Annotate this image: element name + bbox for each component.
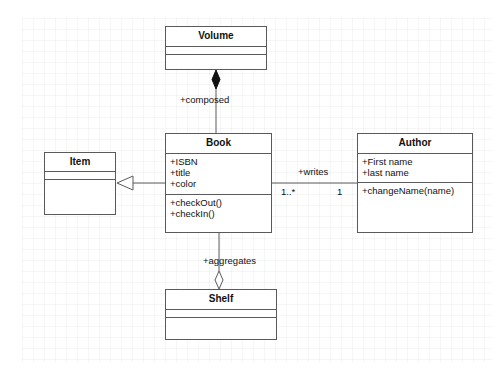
- writes-label: +writes: [298, 166, 328, 177]
- class-shelf[interactable]: Shelf: [165, 289, 277, 340]
- hollow-triangle-icon: [117, 176, 133, 190]
- operations-section: +checkOut() +checkIn(): [166, 195, 271, 219]
- attribute: +title: [170, 167, 271, 178]
- class-name: Item: [45, 153, 115, 172]
- attributes-section: +ISBN +title +color: [166, 154, 271, 195]
- operation: +changeName(name): [362, 185, 472, 196]
- operation: +checkIn(): [170, 208, 271, 219]
- class-author[interactable]: Author +First name +last name +changeNam…: [357, 133, 473, 233]
- class-name: Book: [166, 134, 271, 154]
- class-item[interactable]: Item: [44, 152, 116, 215]
- attribute: +color: [170, 178, 271, 189]
- class-name: Author: [358, 134, 472, 154]
- aggregates-label: +aggregates: [203, 255, 256, 266]
- source-multiplicity: 1..*: [281, 186, 295, 197]
- attributes-section: +First name +last name: [358, 154, 472, 183]
- target-multiplicity: 1: [337, 186, 342, 197]
- attribute: +First name: [362, 156, 472, 167]
- class-name: Volume: [166, 27, 266, 47]
- class-name: Shelf: [166, 290, 276, 310]
- operations-section: +changeName(name): [358, 183, 472, 196]
- attributes-section: [166, 47, 266, 55]
- composed-label: +composed: [180, 94, 229, 105]
- attribute: +ISBN: [170, 156, 271, 167]
- operation: +checkOut(): [170, 197, 271, 208]
- attributes-section: [166, 310, 276, 318]
- attributes-section: [45, 172, 115, 180]
- class-volume[interactable]: Volume: [165, 26, 267, 70]
- class-book[interactable]: Book +ISBN +title +color +checkOut() +ch…: [165, 133, 272, 233]
- hollow-diamond-icon: [215, 271, 223, 289]
- filled-diamond-icon: [212, 70, 220, 89]
- attribute: +last name: [362, 167, 472, 178]
